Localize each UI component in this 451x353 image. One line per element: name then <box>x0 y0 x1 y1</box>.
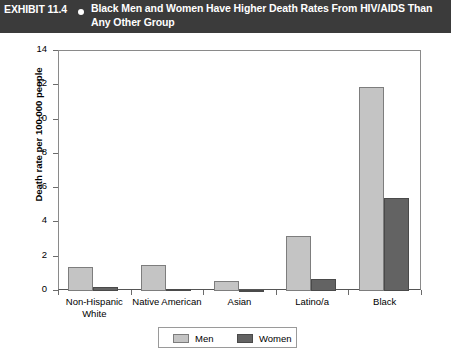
y-axis-tick-label: 14 <box>36 43 47 54</box>
y-axis-tick-label: 6 <box>42 180 47 191</box>
legend-swatch-women <box>237 334 253 343</box>
y-axis-tick-label: 8 <box>42 146 47 157</box>
legend-label: Men <box>195 333 213 344</box>
x-axis-category-label: Asian <box>203 296 276 308</box>
y-axis-title: Death rate per 100,000 people <box>33 35 44 235</box>
x-axis-category-label: Non-Hispanic White <box>58 296 131 320</box>
y-axis-tick-label: 10 <box>36 112 47 123</box>
y-axis-tick-label: 0 <box>42 283 47 294</box>
bullet-dot-icon <box>78 9 84 15</box>
legend-item-women: Women <box>237 332 292 345</box>
x-axis-tick-mark <box>276 290 277 295</box>
exhibit-title: Black Men and Women Have Higher Death Ra… <box>91 2 447 29</box>
x-axis-category-label: Black <box>348 296 421 308</box>
bar-women-black <box>384 198 409 291</box>
legend-item-men: Men <box>173 332 213 345</box>
exhibit-number-label: EXHIBIT 11.4 <box>4 3 67 15</box>
x-axis-category-label: Native American <box>131 296 204 308</box>
bar-chart: Death rate per 100,000 people 0246810121… <box>0 33 451 353</box>
x-axis-category-label: Latino/a <box>276 296 349 308</box>
chart-legend: MenWomen <box>158 327 297 348</box>
plot-area <box>58 50 421 290</box>
bar-women-asian <box>239 290 264 292</box>
x-axis-tick-mark <box>131 290 132 295</box>
bar-men-non-hispanic-white <box>68 267 93 291</box>
legend-swatch-men <box>173 334 189 343</box>
y-axis-tick-label: 2 <box>42 249 47 260</box>
bar-men-native-american <box>141 265 166 291</box>
bar-women-latino-a <box>311 279 336 291</box>
legend-label: Women <box>259 333 292 344</box>
x-axis-tick-mark <box>421 290 422 295</box>
y-axis-tick-label: 12 <box>36 77 47 88</box>
bar-women-native-american <box>166 289 191 291</box>
bar-men-black <box>359 87 384 291</box>
x-axis-tick-mark <box>203 290 204 295</box>
bar-men-latino-a <box>286 236 311 291</box>
exhibit-header-bar: EXHIBIT 11.4 Black Men and Women Have Hi… <box>0 0 451 33</box>
bar-women-non-hispanic-white <box>93 287 118 291</box>
y-axis-tick-label: 4 <box>42 214 47 225</box>
bar-men-asian <box>214 281 239 291</box>
x-axis-tick-mark <box>348 290 349 295</box>
x-axis-tick-mark <box>58 290 59 295</box>
